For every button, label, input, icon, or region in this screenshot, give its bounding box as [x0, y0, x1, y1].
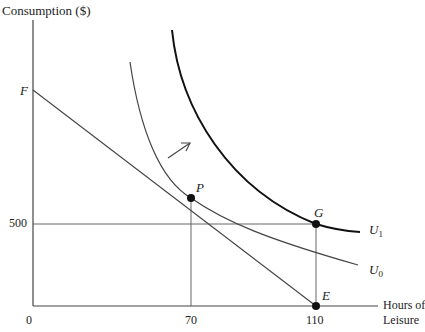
shift-arrow-icon — [168, 143, 190, 158]
label-U1: U1 — [369, 223, 383, 239]
label-U1-sub: 1 — [378, 229, 383, 239]
y-tick-500: 500 — [9, 217, 27, 229]
y-axis-label: Consumption ($) — [2, 4, 90, 17]
label-U0-main: U — [369, 262, 378, 277]
label-F: F — [20, 84, 28, 97]
indifference-curve-U0 — [130, 62, 358, 265]
indifference-curve-U1 — [172, 30, 360, 232]
x-axis-label-line1: Hours of — [383, 299, 425, 311]
x-axis-label-line2: Leisure — [383, 314, 419, 326]
label-U0: U0 — [369, 263, 383, 279]
x-tick-70: 70 — [185, 314, 197, 326]
point-E — [312, 302, 320, 310]
label-U0-sub: 0 — [378, 269, 383, 279]
x-tick-110: 110 — [306, 314, 324, 326]
x-tick-0: 0 — [26, 314, 32, 326]
label-U1-main: U — [369, 222, 378, 237]
point-G — [312, 220, 320, 228]
budget-line-FE — [33, 90, 316, 306]
label-P: P — [196, 181, 204, 194]
point-P — [187, 194, 195, 202]
label-E: E — [322, 289, 330, 302]
label-G: G — [314, 206, 323, 219]
